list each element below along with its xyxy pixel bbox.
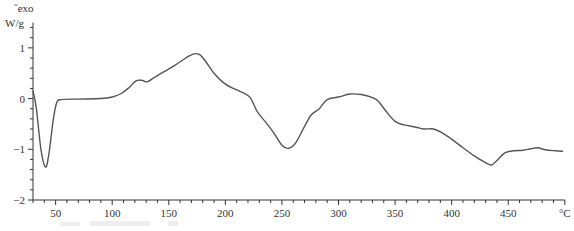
x-tick-label: 300: [330, 207, 347, 219]
x-tick-label: 450: [500, 207, 517, 219]
faded-caption-fragment: [60, 222, 80, 226]
y-axis-unit-label: W/g: [5, 17, 24, 29]
y-tick-label: −2: [13, 194, 25, 206]
dsc-chart: −2−101 50100150200250300350400450 ˆexo W…: [0, 0, 574, 231]
y-tick-label: 0: [20, 93, 26, 105]
y-ticks: −2−101: [13, 28, 33, 206]
x-ticks: 50100150200250300350400450: [33, 200, 565, 219]
y-tick-label: 1: [20, 42, 26, 54]
x-tick-label: 100: [104, 207, 121, 219]
axes: −2−101 50100150200250300350400450: [13, 23, 565, 220]
series-line-dsc-heat-flow: [33, 54, 563, 168]
x-axis-unit-label: °C: [559, 207, 571, 219]
x-tick-label: 200: [217, 207, 234, 219]
y-tick-label: −1: [13, 143, 25, 155]
x-tick-label: 150: [161, 207, 178, 219]
x-tick-label: 250: [274, 207, 291, 219]
faded-caption-fragment: [90, 221, 150, 226]
exo-annotation: ˆexo: [14, 2, 34, 14]
x-tick-label: 50: [50, 207, 62, 219]
x-tick-label: 350: [387, 207, 404, 219]
faded-caption-fragment: [168, 221, 178, 226]
x-tick-label: 400: [443, 207, 460, 219]
